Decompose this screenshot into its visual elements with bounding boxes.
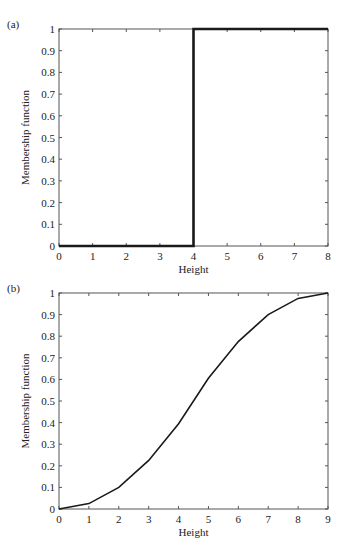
y-tick-label: 0.7 bbox=[41, 88, 55, 100]
x-tick-label: 9 bbox=[325, 513, 331, 525]
x-axis-title: Height bbox=[179, 526, 209, 538]
y-tick-label: 0 bbox=[50, 240, 56, 252]
x-tick-label: 6 bbox=[258, 250, 264, 262]
x-tick-label: 4 bbox=[176, 513, 182, 525]
data-line bbox=[59, 29, 328, 246]
x-tick-label: 5 bbox=[206, 513, 212, 525]
y-tick-label: 0.2 bbox=[41, 460, 55, 472]
y-tick-label: 0.1 bbox=[41, 481, 55, 493]
x-tick-label: 8 bbox=[325, 250, 331, 262]
x-tick-label: 2 bbox=[124, 250, 130, 262]
x-tick-label: 8 bbox=[295, 513, 301, 525]
y-tick-label: 1 bbox=[50, 287, 56, 299]
y-tick-label: 0.3 bbox=[41, 175, 55, 187]
x-tick-label: 5 bbox=[224, 250, 230, 262]
x-tick-label: 7 bbox=[265, 513, 271, 525]
x-tick-label: 7 bbox=[292, 250, 298, 262]
y-tick-label: 1 bbox=[50, 23, 56, 35]
y-tick-label: 0.9 bbox=[41, 45, 55, 57]
x-tick-label: 3 bbox=[157, 250, 163, 262]
y-tick-label: 0.8 bbox=[41, 66, 55, 78]
x-tick-label: 1 bbox=[86, 513, 92, 525]
x-tick-label: 2 bbox=[116, 513, 122, 525]
x-tick-label: 0 bbox=[56, 250, 62, 262]
x-tick-label: 0 bbox=[56, 513, 62, 525]
y-tick-label: 0.5 bbox=[41, 132, 55, 144]
y-axis-title: Membership function bbox=[19, 89, 31, 185]
y-tick-label: 0.5 bbox=[41, 395, 55, 407]
panel-label: (a) bbox=[7, 18, 20, 31]
x-tick-label: 1 bbox=[90, 250, 96, 262]
y-tick-label: 0.1 bbox=[41, 218, 55, 230]
data-line bbox=[59, 293, 328, 509]
y-tick-label: 0.4 bbox=[41, 153, 55, 165]
y-tick-label: 0.7 bbox=[41, 352, 55, 364]
y-tick-label: 0.3 bbox=[41, 438, 55, 450]
x-axis-title: Height bbox=[179, 263, 209, 275]
x-tick-label: 6 bbox=[236, 513, 242, 525]
chart-panel-a: 01234567800.10.20.30.40.50.60.70.80.91He… bbox=[7, 18, 331, 275]
y-tick-label: 0.6 bbox=[41, 373, 55, 385]
panel-label: (b) bbox=[7, 282, 20, 295]
y-tick-label: 0.4 bbox=[41, 417, 55, 429]
y-tick-label: 0.6 bbox=[41, 110, 55, 122]
y-axis-title: Membership function bbox=[19, 353, 31, 449]
y-tick-label: 0.9 bbox=[41, 309, 55, 321]
x-tick-label: 3 bbox=[146, 513, 152, 525]
x-tick-label: 4 bbox=[191, 250, 197, 262]
y-tick-label: 0 bbox=[50, 503, 56, 515]
figure: 01234567800.10.20.30.40.50.60.70.80.91He… bbox=[0, 0, 350, 556]
chart-panel-b: 012345678900.10.20.30.40.50.60.70.80.91H… bbox=[7, 282, 331, 538]
y-tick-label: 0.2 bbox=[41, 197, 55, 209]
y-tick-label: 0.8 bbox=[41, 330, 55, 342]
